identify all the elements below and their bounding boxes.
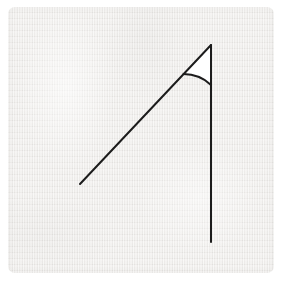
paper-vignette	[8, 7, 274, 273]
screenshot-root	[0, 0, 287, 288]
paper-card	[8, 7, 274, 273]
paper-texture-vertical	[8, 7, 274, 273]
paper-texture-blotch	[8, 7, 274, 273]
paper-texture-horizontal	[8, 7, 274, 273]
